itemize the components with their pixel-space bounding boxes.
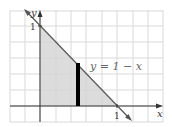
y-tick-label: 1 bbox=[30, 22, 36, 32]
representative-strip bbox=[76, 63, 80, 106]
x-tick-label: 1 bbox=[114, 111, 120, 121]
curve-label: y = 1 − x bbox=[89, 60, 143, 73]
diagram-figure: y x 1 1 y = 1 − x bbox=[0, 0, 172, 127]
plot-svg: y x 1 1 y = 1 − x bbox=[0, 0, 172, 127]
x-axis-label: x bbox=[157, 108, 163, 119]
y-axis-label: y bbox=[30, 7, 37, 18]
